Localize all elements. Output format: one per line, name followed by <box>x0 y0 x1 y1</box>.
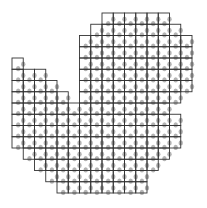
dot-marker <box>16 122 20 127</box>
dot-marker <box>117 32 121 37</box>
dot-marker <box>83 134 87 139</box>
dot-marker <box>140 111 144 116</box>
dot-marker <box>151 134 155 139</box>
dot-marker <box>95 66 99 71</box>
dot-marker <box>128 32 132 37</box>
dot-marker <box>117 21 121 26</box>
dot-marker <box>72 122 76 127</box>
dot-marker <box>27 156 31 161</box>
dot-marker <box>83 156 87 161</box>
dot-marker <box>162 55 166 60</box>
dot-marker <box>83 77 87 82</box>
dot-marker <box>95 167 99 172</box>
dot-marker <box>27 100 31 105</box>
dot-marker <box>50 179 54 184</box>
dot-marker <box>140 32 144 37</box>
dot-marker <box>151 100 155 105</box>
dot-marker <box>162 77 166 82</box>
dot-marker <box>173 55 177 60</box>
dot-marker <box>128 55 132 60</box>
dot-marker <box>50 167 54 172</box>
cell-layer <box>12 13 192 193</box>
dot-marker <box>151 55 155 60</box>
dot-marker <box>27 145 31 150</box>
dot-marker <box>16 134 20 139</box>
dot-marker <box>140 145 144 150</box>
dot-marker <box>106 122 110 127</box>
dot-marker <box>83 179 87 184</box>
dot-marker <box>117 156 121 161</box>
dot-marker <box>173 134 177 139</box>
dot-marker <box>128 89 132 94</box>
dot-marker <box>38 167 42 172</box>
dot-marker <box>106 167 110 172</box>
dot-marker <box>140 122 144 127</box>
dot-marker <box>162 100 166 105</box>
dot-marker <box>50 89 54 94</box>
dot-marker <box>95 111 99 116</box>
dot-marker <box>173 145 177 150</box>
dot-marker <box>140 134 144 139</box>
dot-marker <box>106 190 110 195</box>
dot-marker <box>162 156 166 161</box>
dot-marker <box>61 190 65 195</box>
dot-marker <box>128 134 132 139</box>
dot-marker <box>16 145 20 150</box>
dot-marker <box>128 21 132 26</box>
dot-marker <box>106 89 110 94</box>
dot-marker <box>117 100 121 105</box>
dot-marker <box>162 89 166 94</box>
dot-marker <box>140 179 144 184</box>
dot-marker <box>61 179 65 184</box>
dot-marker <box>106 145 110 150</box>
dot-marker <box>128 77 132 82</box>
dot-marker <box>83 55 87 60</box>
dot-marker <box>173 66 177 71</box>
dot-marker <box>151 77 155 82</box>
dot-marker <box>38 77 42 82</box>
dot-marker <box>50 100 54 105</box>
dot-marker <box>117 122 121 127</box>
dot-marker <box>128 179 132 184</box>
dot-marker <box>95 179 99 184</box>
dot-marker <box>106 44 110 49</box>
dot-marker <box>117 55 121 60</box>
dot-marker <box>50 156 54 161</box>
dot-marker <box>95 100 99 105</box>
dot-marker <box>117 111 121 116</box>
dot-marker <box>95 190 99 195</box>
dot-marker <box>38 134 42 139</box>
dot-marker <box>106 111 110 116</box>
grid-mask-diagram <box>0 0 207 208</box>
dot-marker <box>151 167 155 172</box>
dot-marker <box>83 100 87 105</box>
dot-marker <box>173 89 177 94</box>
dot-marker <box>72 190 76 195</box>
dot-marker <box>185 89 189 94</box>
dot-marker <box>140 44 144 49</box>
dot-marker <box>117 145 121 150</box>
dot-marker <box>117 179 121 184</box>
dot-marker <box>61 167 65 172</box>
dot-marker <box>16 89 20 94</box>
dot-marker <box>128 156 132 161</box>
dot-marker <box>140 89 144 94</box>
dot-marker <box>173 44 177 49</box>
dot-marker <box>106 156 110 161</box>
dot-marker <box>50 122 54 127</box>
dot-marker <box>16 100 20 105</box>
dot-marker <box>128 66 132 71</box>
dot-marker <box>95 145 99 150</box>
dot-marker <box>83 66 87 71</box>
dot-marker <box>83 122 87 127</box>
dot-marker <box>38 100 42 105</box>
dot-marker <box>72 179 76 184</box>
dot-marker <box>83 145 87 150</box>
dot-marker <box>72 111 76 116</box>
dot-marker <box>140 77 144 82</box>
dot-marker <box>117 44 121 49</box>
dot-marker <box>173 77 177 82</box>
dot-marker <box>95 122 99 127</box>
dot-marker <box>140 100 144 105</box>
dot-marker <box>162 44 166 49</box>
